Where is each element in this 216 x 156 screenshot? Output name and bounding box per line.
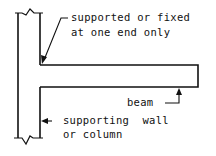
leader-beam xyxy=(165,91,179,103)
label-support-line2: or column xyxy=(63,129,123,140)
beam-outline xyxy=(40,65,198,87)
arrowhead-fixed xyxy=(41,55,47,64)
label-beam: beam xyxy=(127,97,154,108)
arrowhead-beam xyxy=(176,88,182,95)
leader-fixed xyxy=(44,18,68,60)
break-line-top xyxy=(15,9,43,15)
arrowhead-support xyxy=(41,118,48,124)
label-fixed-line2: at one end only xyxy=(71,27,170,38)
label-support-line1: supporting wall xyxy=(63,115,169,126)
label-fixed-line1: supported or fixed xyxy=(71,12,190,23)
